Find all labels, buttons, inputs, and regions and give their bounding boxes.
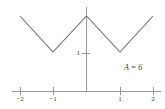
x-tick-label-pos2: 2 [151,96,155,103]
x-tick-label-neg2: −2 [16,96,23,103]
amplitude-annotation: A = 6 [124,64,142,72]
x-tick-label-neg1: −1 [49,96,56,103]
x-tick-label-pos1: 1 [118,96,122,103]
y-tick-label-pos1: 1 [77,50,81,57]
figure-container: −2 −1 1 2 1 A = 6 [0,0,165,109]
plot-canvas [0,0,165,109]
